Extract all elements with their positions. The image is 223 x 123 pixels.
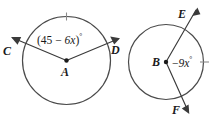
angle-b-variable: 9x [179,57,190,69]
center-point-b [164,60,168,64]
angle-a-prefix: (45 [37,34,55,46]
point-label-f: F [172,104,180,116]
degree-symbol-b: ° [189,55,192,64]
point-label-c: C [3,45,11,57]
point-label-e: E [178,8,186,20]
geometry-figure: C D A (45 − 6x)° E F B −9x° [0,0,223,123]
angle-a-variable: 6x [62,34,76,46]
center-point-a [64,58,68,62]
angle-label-circle-a: (45 − 6x)° [37,33,82,46]
angle-label-circle-b: −9x° [172,56,192,69]
ray-be-arrowhead [192,7,200,16]
point-label-d: D [111,44,120,56]
center-label-a: A [61,66,69,78]
center-label-b: B [152,56,160,68]
degree-symbol-a: ° [79,32,82,41]
